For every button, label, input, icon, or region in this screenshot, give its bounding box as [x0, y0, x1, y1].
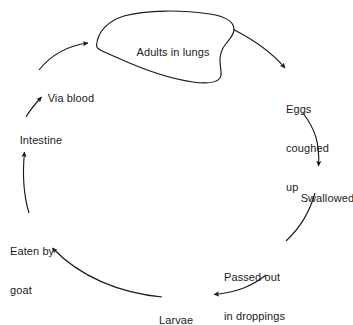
node-larvae-on-pasture-line-1: Larvae	[159, 314, 245, 325]
node-eaten-by-goat: Eaten by goat	[10, 219, 72, 323]
node-swallowed: Swallowed	[288, 179, 352, 218]
edge-adults-to-eggs	[234, 30, 286, 69]
edge-via-blood-to-adults	[39, 43, 88, 70]
node-larvae-on-pasture: Larvae on pasture	[159, 288, 245, 325]
node-eaten-by-goat-line-2: goat	[10, 284, 72, 297]
lifecycle-diagram: Adults in lungs Eggs coughed up Swallowe…	[0, 0, 353, 325]
node-adults-in-lungs-label: Adults in lungs	[136, 46, 209, 58]
node-eggs-coughed-up-line-1: Eggs	[286, 103, 348, 116]
node-swallowed-label: Swallowed	[301, 192, 353, 204]
edge-eaten-to-intestine	[23, 152, 29, 213]
node-via-blood-label: Via blood	[48, 92, 95, 104]
node-intestine: Intestine	[7, 121, 67, 160]
node-via-blood: Via blood	[35, 79, 97, 118]
node-intestine-label: Intestine	[20, 134, 62, 146]
node-passed-out-in-droppings-line-1: Passed out	[224, 271, 334, 284]
node-adults-in-lungs: Adults in lungs	[120, 33, 214, 72]
node-eggs-coughed-up-line-2: coughed	[286, 142, 348, 155]
node-eaten-by-goat-line-1: Eaten by	[10, 245, 72, 258]
